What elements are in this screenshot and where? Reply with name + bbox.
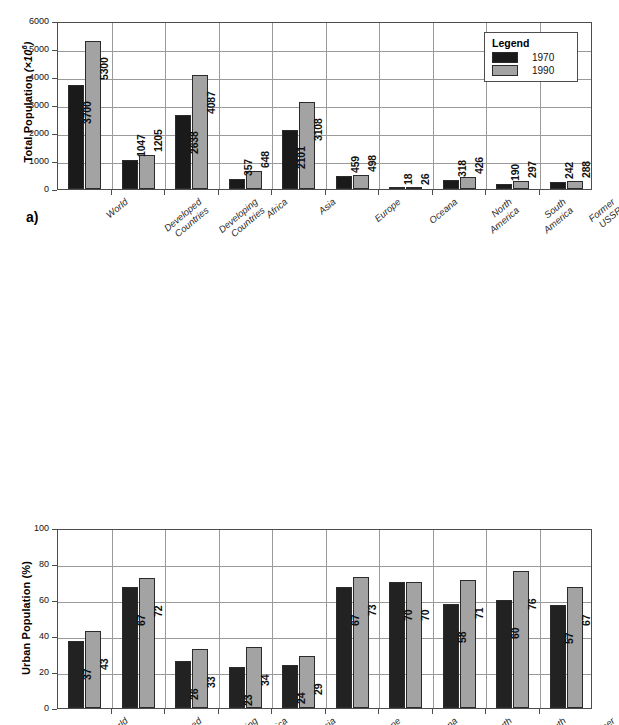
bar-value-label: 190 xyxy=(509,164,521,181)
bar-value-label: 1047 xyxy=(135,134,147,157)
x-axis-label: DevelopedCountries xyxy=(162,196,211,242)
x-axis-label-line: Africa xyxy=(264,196,290,220)
bar xyxy=(567,181,583,189)
x-axis-label: Africa xyxy=(264,196,290,220)
bar xyxy=(353,175,369,189)
x-axis-label-line: World xyxy=(104,196,130,220)
bar-value-label: 648 xyxy=(259,151,271,168)
x-axis-label: Asia xyxy=(316,196,337,216)
bar-value-label: 426 xyxy=(473,157,485,174)
bar-value-label: 3700 xyxy=(81,102,93,125)
bar-value-label: 2638 xyxy=(188,132,200,155)
x-axis-label: Europe xyxy=(372,196,403,224)
x-axis-label: DevelopingCountries xyxy=(216,196,267,243)
bar xyxy=(443,180,459,189)
bar-value-label: 4087 xyxy=(205,91,217,114)
bar-value-label: 288 xyxy=(580,161,592,178)
bar-value-label: 318 xyxy=(456,160,468,177)
y-tick-label: 4000 xyxy=(0,72,49,82)
y-tick-label: 0 xyxy=(0,184,49,194)
legend-swatch-1970 xyxy=(492,52,518,63)
bar xyxy=(336,176,352,189)
y-tick-mark xyxy=(52,50,57,51)
x-axis-label: SouthAmerica xyxy=(534,196,575,235)
chart-panel-a: Total Population (×106)01000200030004000… xyxy=(0,0,619,240)
bar xyxy=(229,179,245,189)
y-tick-label: 6000 xyxy=(0,16,49,26)
bar-value-label: 26 xyxy=(419,174,431,185)
legend-item[interactable]: 1970 xyxy=(492,52,570,63)
chart-panel-b: Urban Population (%)0204060801003743Worl… xyxy=(0,258,619,490)
x-tick-mark xyxy=(432,190,433,195)
category-separator xyxy=(219,23,220,189)
bar-value-label: 459 xyxy=(349,156,361,173)
chart-panel-c: Average AnnualUrban Growth Rate (%)0.01.… xyxy=(0,498,619,725)
x-tick-mark xyxy=(218,190,219,195)
y-tick-label: 3000 xyxy=(0,100,49,110)
legend-label: 1970 xyxy=(532,52,554,63)
bar-value-label: 357 xyxy=(242,159,254,176)
bar xyxy=(389,187,405,189)
x-axis-label: FormerUSSR xyxy=(586,196,619,233)
legend: Legend19701990 xyxy=(484,32,578,82)
bar xyxy=(406,187,422,189)
x-tick-mark xyxy=(485,190,486,195)
y-tick-label: 2000 xyxy=(0,128,49,138)
y-tick-mark xyxy=(52,78,57,79)
x-axis-label-line: Asia xyxy=(316,196,337,216)
category-separator xyxy=(112,23,113,189)
bar xyxy=(513,181,529,189)
x-tick-mark xyxy=(164,190,165,195)
bar xyxy=(550,182,566,189)
x-tick-mark xyxy=(325,190,326,195)
category-separator xyxy=(326,23,327,189)
legend-label: 1990 xyxy=(532,65,554,76)
x-tick-mark xyxy=(378,190,379,195)
legend-item[interactable]: 1990 xyxy=(492,65,570,76)
y-tick-mark xyxy=(52,162,57,163)
category-separator xyxy=(433,23,434,189)
x-tick-mark xyxy=(271,190,272,195)
x-axis-label: Oceana xyxy=(427,196,460,226)
bar-value-label: 498 xyxy=(366,155,378,172)
category-separator xyxy=(165,23,166,189)
bar-value-label: 3108 xyxy=(312,118,324,141)
x-tick-mark xyxy=(539,190,540,195)
bar-value-label: 2101 xyxy=(295,147,307,170)
bar-value-label: 18 xyxy=(402,174,414,185)
legend-title: Legend xyxy=(492,37,570,49)
bar-value-label: 242 xyxy=(563,162,575,179)
x-axis-label-line: Europe xyxy=(372,196,403,224)
x-axis-label: NorthAmerica xyxy=(480,196,521,235)
y-tick-mark xyxy=(52,190,57,191)
bar-value-label: 1205 xyxy=(152,130,164,153)
y-tick-mark xyxy=(52,106,57,107)
y-tick-label: 5000 xyxy=(0,44,49,54)
y-tick-label: 1000 xyxy=(0,156,49,166)
category-separator xyxy=(379,23,380,189)
bar xyxy=(460,177,476,189)
legend-swatch-1990 xyxy=(492,65,518,76)
bar xyxy=(496,184,512,189)
x-tick-mark xyxy=(111,190,112,195)
panel-letter: a) xyxy=(26,209,38,225)
gridline xyxy=(58,107,591,108)
bar-value-label: 5300 xyxy=(98,57,110,80)
y-tick-mark xyxy=(52,134,57,135)
category-separator xyxy=(272,23,273,189)
y-tick-mark xyxy=(52,22,57,23)
y-axis-title-main: Total Population xyxy=(22,72,34,162)
bar xyxy=(122,160,138,189)
bar xyxy=(139,155,155,189)
x-axis-label-line: Oceana xyxy=(427,196,460,226)
x-axis-label: World xyxy=(104,196,130,220)
bar-value-label: 297 xyxy=(526,161,538,178)
